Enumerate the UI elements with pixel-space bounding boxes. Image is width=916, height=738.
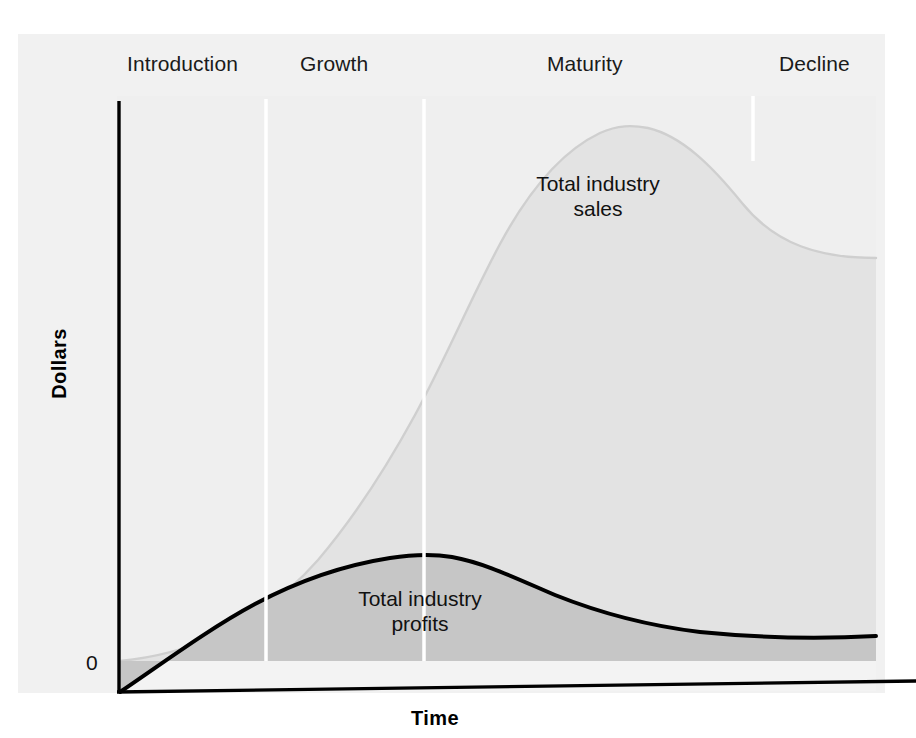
x-axis-title: Time (335, 707, 535, 730)
y-axis-title: Dollars (48, 304, 71, 424)
stage-label-growth: Growth (300, 52, 368, 76)
profits-annotation-line1: Total industry (358, 587, 482, 610)
product-life-cycle-chart: Introduction Growth Maturity Decline Tot… (0, 0, 916, 738)
profits-annotation-line2: profits (391, 612, 448, 635)
sales-annotation: Total industry sales (498, 171, 698, 221)
stage-label-introduction: Introduction (127, 52, 238, 76)
profits-annotation: Total industry profits (320, 586, 520, 636)
x-axis-line (117, 681, 916, 692)
y-axis-zero-tick-label: 0 (86, 651, 98, 675)
stage-label-decline: Decline (779, 52, 850, 76)
sales-annotation-line2: sales (573, 197, 622, 220)
stage-label-maturity: Maturity (547, 52, 622, 76)
sales-annotation-line1: Total industry (536, 172, 660, 195)
